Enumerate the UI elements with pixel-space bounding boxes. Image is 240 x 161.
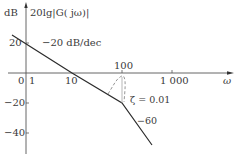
y-tick-label-m40: −40 (4, 127, 25, 138)
x-tick-label-100: 100 (114, 60, 133, 71)
zeta-label: ζ = 0.01 (130, 94, 170, 105)
resonant-peak-curve (108, 76, 125, 102)
x-tick-label-1: 1 (29, 75, 35, 86)
y-tick-label-m20: −20 (4, 97, 25, 108)
y-axis-title: 20lg|G( jω)| (30, 7, 89, 19)
y-unit-label: dB (4, 7, 18, 18)
asymptote-line (12, 35, 152, 145)
origin-label: 0 (18, 75, 24, 86)
x-tick-label-10: 10 (65, 75, 78, 86)
y-axis-arrow-icon (24, 2, 27, 8)
x-axis-title: ω (223, 75, 231, 86)
slope-label-1: −20 dB/dec (42, 37, 102, 48)
slope-label-2: −60 (137, 115, 157, 126)
bode-plot: dB 20lg|G( jω)| 20 −20 dB/dec 0 1 10 100… (0, 0, 240, 161)
x-tick-label-1000: 1 000 (160, 75, 189, 86)
y-tick-label-20: 20 (9, 37, 22, 48)
